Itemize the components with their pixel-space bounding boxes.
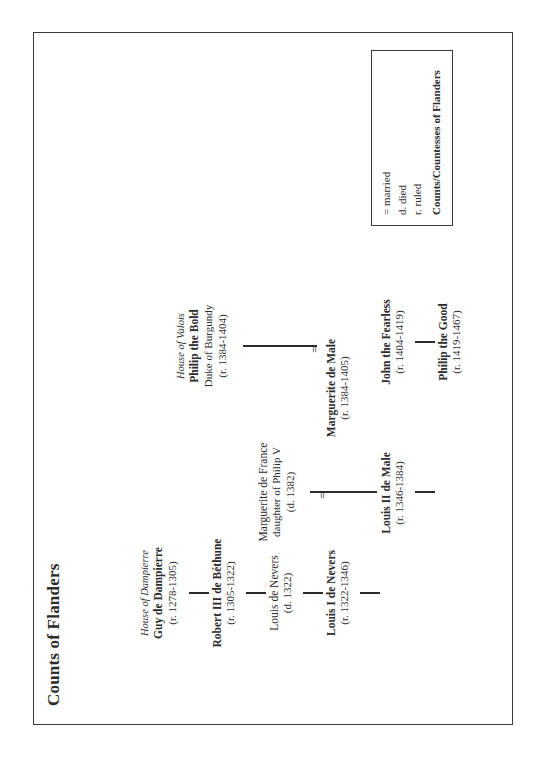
node-dates-label: (r. 1322-1346) [338, 518, 352, 668]
node-robert-iii-de-bethune: Robert III de Béthune (r. 1305-1322) [210, 515, 238, 671]
page-title: Counts of Flanders [44, 564, 64, 706]
node-dates-label: (r. 1384-1404) [216, 266, 230, 426]
node-john-the-fearless: John the Fearless (r. 1404-1419) [379, 267, 407, 417]
node-name-label: Philip the Bold [187, 266, 201, 426]
node-louis-ii-de-male: Louis II de Male (r. 1346-1384) [379, 420, 407, 566]
node-name-label: John the Fearless [379, 267, 393, 417]
legend-item-ruled: r. ruled [410, 61, 426, 215]
page-sheet: Counts of Flanders House of Dampierre Gu… [33, 32, 513, 725]
node-house-label: House of Valois [174, 266, 187, 426]
node-subtitle-label: Duke of Burgundy [202, 266, 216, 426]
node-dates-label: (r. 1278-1305) [166, 518, 180, 668]
node-name-label: Marguerite de France [256, 410, 270, 574]
connector-louis-i-to-louis-ii [360, 592, 380, 594]
connector-guy-to-robert [189, 592, 209, 594]
legend-item-died: d. died [395, 61, 411, 215]
connector-robert-to-louis-de-nevers [246, 592, 266, 594]
node-subtitle-label: daughter of Philip V [270, 410, 284, 574]
node-marguerite-de-france: Marguerite de France daughter of Philip … [256, 410, 298, 574]
node-louis-i-de-nevers: Louis I de Nevers (r. 1322-1346) [324, 518, 352, 668]
marriage-symbol-marguerite-france-louis-ii: = [316, 492, 329, 499]
connector-john-to-philip-good [415, 341, 435, 343]
node-name-label: Robert III de Béthune [210, 515, 224, 671]
node-name-label: Philip the Good [436, 269, 450, 415]
node-dates-label: (r. 1346-1384) [393, 420, 407, 566]
node-name-label: Marguerite de Male [324, 308, 338, 468]
node-dates-label: (r. 1305-1322) [224, 515, 238, 671]
legend-box: = married d. died r. ruled Counts/Counte… [371, 50, 453, 226]
node-philip-the-bold: House of Valois Philip the Bold Duke of … [174, 266, 229, 426]
node-marguerite-de-male: Marguerite de Male (r. 1384-1405) [324, 308, 352, 468]
legend-item-married: = married [379, 61, 395, 215]
node-name-label: Louis I de Nevers [324, 518, 338, 668]
node-name-label: Louis II de Male [379, 420, 393, 566]
legend-item-counts-countesses: Counts/Countesses of Flanders [429, 61, 445, 215]
marriage-line-marguerite-male-philip-bold [243, 345, 317, 347]
marriage-symbol-marguerite-male-philip-bold: = [308, 346, 321, 353]
node-guy-de-dampierre: House of Dampierre Guy de Dampierre (r. … [138, 518, 180, 668]
node-dates-label: (r. 1404-1419) [393, 267, 407, 417]
node-house-label: House of Dampierre [138, 518, 151, 668]
node-dates-label: (r. 1419-1467) [450, 269, 464, 415]
node-dates-label: (d. 1382) [284, 410, 298, 574]
node-philip-the-good: Philip the Good (r. 1419-1467) [436, 269, 464, 415]
genealogy-chart-canvas: Counts of Flanders House of Dampierre Gu… [34, 33, 514, 726]
node-name-label: Guy de Dampierre [151, 518, 165, 668]
node-dates-label: (r. 1384-1405) [338, 308, 352, 468]
connector-louis-de-nevers-to-louis-i [303, 592, 323, 594]
connector-louis-ii-to-marguerite-de-male [415, 491, 435, 493]
